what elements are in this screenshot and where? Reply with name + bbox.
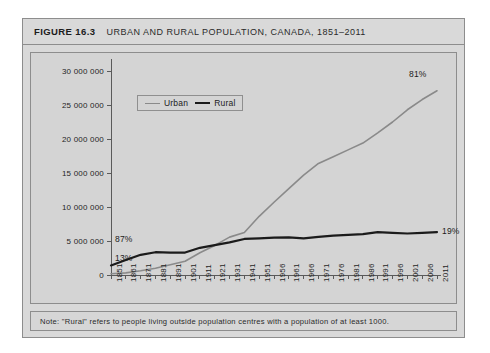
annotation-rural-start: 87% [115,234,133,244]
legend-label-urban: Urban [164,98,188,108]
x-axis-label: 1976 [337,263,346,282]
series-line-urban [111,91,437,274]
figure-footnote: Note: "Rural" refers to people living ou… [40,317,389,326]
legend-item-rural[interactable]: Rural [195,98,235,108]
y-axis-label: 20 000 000 [62,135,104,144]
y-axis-label: 10 000 000 [62,203,104,212]
x-axis-label: 2001 [411,263,420,282]
x-axis-label: 1861 [129,263,138,282]
chart-legend: Urban Rural [137,95,243,111]
annotation-urban-end: 81% [409,69,427,79]
x-axis-label: 1986 [367,263,376,282]
x-axis-label: 1971 [322,263,331,282]
legend-label-rural: Rural [214,98,235,108]
x-axis-label: 1951 [263,263,272,282]
x-axis-label: 1871 [144,263,153,282]
legend-item-urban[interactable]: Urban [145,98,188,108]
y-axis-label: 25 000 000 [62,101,104,110]
chart-plot-area: Urban Rural 87% 13% 81% 19% 30 000 00025… [30,52,457,304]
y-axis-label: 30 000 000 [62,67,104,76]
annotation-rural-end: 19% [442,226,460,236]
x-axis-label: 1881 [159,263,168,282]
x-axis-label: 1941 [248,263,257,282]
y-axis-label: 15 000 000 [62,169,104,178]
x-axis-label: 1901 [189,263,198,282]
y-axis-label: 0 [99,271,104,280]
series-line-rural [111,232,437,265]
y-axis-label: 5 000 000 [67,237,104,246]
figure-title: URBAN AND RURAL POPULATION, CANADA, 1851… [106,27,365,37]
figure-footnote-container: Note: "Rural" refers to people living ou… [30,311,457,331]
x-axis-label: 1991 [381,263,390,282]
x-axis-label: 1911 [204,264,213,282]
legend-line-urban-icon [145,103,160,104]
x-axis-label: 1966 [307,263,316,282]
x-axis-label: 1891 [174,263,183,282]
x-axis-label: 1961 [292,263,301,282]
x-axis-label: 2006 [426,263,435,282]
figure-card: FIGURE 16.3 URBAN AND RURAL POPULATION, … [22,18,465,338]
x-axis-label: 1851 [115,263,124,282]
figure-number: FIGURE 16.3 [34,26,95,37]
legend-line-rural-icon [195,102,210,104]
chart-canvas [31,53,456,303]
x-axis-label: 2011 [441,264,450,282]
x-axis-label: 1931 [233,263,242,282]
x-axis-label: 1996 [396,263,405,282]
x-axis-label: 1921 [218,263,227,282]
figure-header: FIGURE 16.3 URBAN AND RURAL POPULATION, … [23,19,464,45]
x-axis-label: 1981 [352,263,361,282]
annotation-urban-start: 13% [115,253,133,263]
x-axis-label: 1956 [278,263,287,282]
